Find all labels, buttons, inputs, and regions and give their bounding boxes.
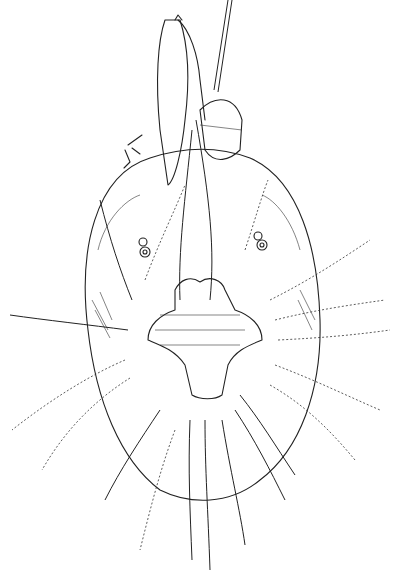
- mite-drawing: [0, 0, 395, 579]
- idiosoma: [85, 149, 320, 500]
- gnathosoma: [124, 0, 242, 185]
- mite-illustration: [0, 0, 395, 579]
